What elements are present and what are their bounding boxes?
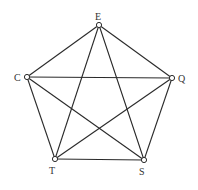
edge-c-s <box>27 77 144 160</box>
node-label-c: C <box>14 72 21 83</box>
edge-e-s <box>99 25 144 160</box>
node-c <box>24 74 29 79</box>
labels-group: ECQTS <box>14 11 186 177</box>
edge-t-s <box>55 159 144 160</box>
edge-q-s <box>144 78 172 160</box>
node-q <box>169 75 174 80</box>
node-label-e: E <box>95 11 101 22</box>
edge-e-q <box>99 25 172 78</box>
edge-q-t <box>55 78 172 159</box>
nodes-group <box>24 22 174 162</box>
edge-e-t <box>55 25 99 159</box>
edge-e-c <box>27 25 99 77</box>
node-t <box>52 156 57 161</box>
edges-group <box>27 25 172 160</box>
edge-c-t <box>27 77 55 159</box>
node-label-q: Q <box>178 73 186 84</box>
node-e <box>96 22 101 27</box>
node-label-t: T <box>49 165 55 176</box>
edge-c-q <box>27 77 172 78</box>
node-s <box>141 157 146 162</box>
node-label-s: S <box>139 166 145 177</box>
k5-graph-diagram: ECQTS <box>0 0 198 190</box>
